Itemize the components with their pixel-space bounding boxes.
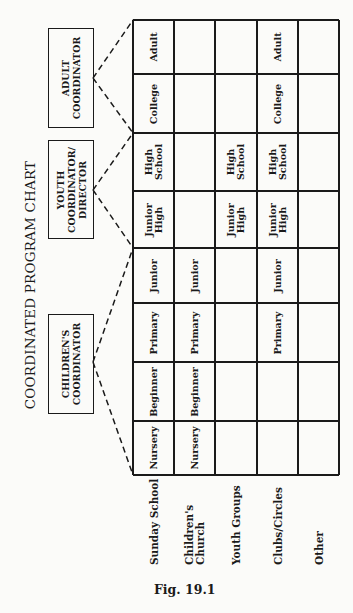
grid-line-horizontal [133,474,339,476]
program-label: Clubs/Circles [272,487,283,565]
table-cell: Junior [149,259,159,293]
program-label-line: Youth Groups [231,485,242,565]
program-label: Youth Groups [231,485,242,565]
table-cell: High School [226,142,246,182]
grid-line-horizontal [133,247,339,249]
program-label: Sunday School [148,479,159,565]
figure-caption: Fig. 19.1 [154,582,216,597]
coordinator-connector-lines [0,0,353,613]
table-cell: Nursery [149,427,159,470]
table-cell: Primary [149,311,159,354]
grid-line-horizontal [133,19,339,21]
program-label: Other [313,531,324,565]
grid-line-horizontal [133,73,339,75]
program-label-line: Children's [184,505,195,565]
grid-line-horizontal [133,420,339,422]
table-cell: College [273,83,283,123]
table-cell: Junior [190,259,200,293]
table-cell: Beginner [190,367,200,417]
table-cell: Junior High [144,200,164,240]
grid-line-horizontal [133,302,339,304]
grid-line-horizontal [133,361,339,363]
table-cell: Junior [273,259,283,293]
grid-line-horizontal [133,190,339,192]
table-cell: Junior High [226,200,246,240]
program-label-line: Other [313,531,324,565]
table-cell: Adult [149,32,159,61]
table-cell: Adult [273,32,283,61]
table-cell: College [149,83,159,123]
program-label-line: Clubs/Circles [272,487,283,565]
table-cell: Primary [190,311,200,354]
program-label-line: Church [195,505,206,565]
table-cell: High School [268,142,288,182]
table-cell: Nursery [190,427,200,470]
program-label-line: Sunday School [148,479,159,565]
table-cell: Beginner [149,367,159,417]
grid-line-horizontal [133,132,339,134]
table-cell: Primary [273,311,283,354]
program-label: Children'sChurch [184,505,206,565]
table-cell: High School [144,142,164,182]
table-cell: Junior High [268,200,288,240]
